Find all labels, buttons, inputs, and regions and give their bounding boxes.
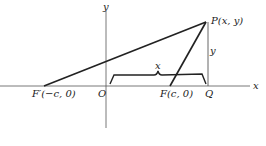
ellipse-foci-diagram: y x O P(x, y) F(c, 0) F′(−c, 0) Q x y — [0, 0, 266, 146]
point-f-label: F(c, 0) — [159, 88, 193, 99]
segment-fprime-p — [44, 22, 206, 86]
segment-f-p — [170, 22, 206, 86]
x-axis-label: x — [253, 80, 259, 91]
origin-label: O — [98, 88, 106, 99]
point-fprime-label: F′(−c, 0) — [31, 88, 76, 99]
point-p-label: P(x, y) — [210, 15, 243, 26]
vertical-y-label: y — [209, 45, 216, 56]
point-q-label: Q — [205, 88, 213, 99]
brace-x — [110, 71, 206, 84]
y-axis-label: y — [102, 1, 109, 12]
brace-x-label: x — [155, 60, 161, 71]
